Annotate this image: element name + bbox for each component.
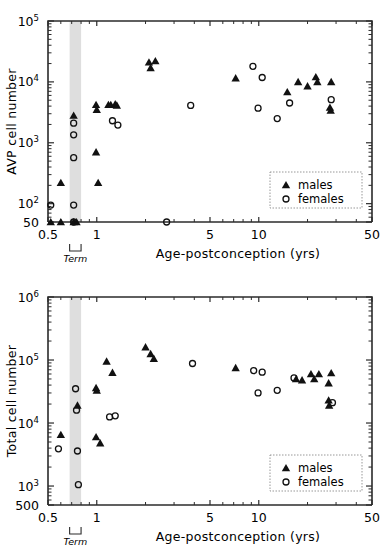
data-point-male [92,433,100,440]
x-tick-label: 0.5 [38,227,58,242]
term-bracket [70,244,81,251]
data-point-female [107,414,113,420]
data-point-male [283,88,291,95]
data-point-female [274,387,280,393]
data-point-female [255,105,261,111]
series-males [57,343,336,446]
data-point-female [250,63,256,69]
y-tick-label: 50 [23,215,39,230]
x-tick-label: 50 [364,227,380,242]
data-point-male [298,376,306,383]
x-tick-label: 5 [206,227,214,242]
x-axis-title: Age-postconception (yrs) [156,529,321,544]
term-bracket [70,527,81,534]
data-point-male [327,78,335,85]
data-point-male [145,58,153,65]
data-point-female [255,390,261,396]
term-bracket-label: Term [64,536,88,547]
x-tick-label: 1 [93,227,101,242]
data-point-female [251,368,257,374]
data-point-female [188,102,194,108]
y-tick-label: 106 [18,289,39,305]
data-point-male [92,148,100,155]
x-tick-label: 5 [206,510,214,525]
y-tick-label: 104 [18,415,39,431]
y-tick-label: 500 [15,498,39,513]
data-point-male [231,74,239,81]
y-axis-title: Total cell number [4,344,19,458]
y-tick-label: 103 [18,478,39,494]
data-point-male [102,357,110,364]
data-point-female [287,100,293,106]
term-shaded-band [70,297,81,505]
data-point-female [109,118,115,124]
data-point-female [112,413,118,419]
data-point-male [294,78,302,85]
data-point-male [327,369,335,376]
y-tick-label: 103 [18,134,39,150]
data-point-female [274,116,280,122]
y-tick-label: 105 [18,13,39,29]
term-bracket-label: Term [64,253,88,264]
data-point-male [151,57,159,64]
x-tick-label: 10 [251,510,267,525]
data-point-male [315,370,323,377]
y-tick-label: 104 [18,73,39,89]
x-tick-label: 0.5 [38,510,58,525]
data-point-female [259,75,265,81]
avp-cell-number-panel: 0.515105050102103104105AVP cell numberAg… [0,0,388,277]
data-point-male [57,431,65,438]
legend-label-males: males [298,461,333,475]
data-point-male [141,343,149,350]
data-point-female [328,97,334,103]
data-point-male [94,179,102,186]
data-point-male [231,364,239,371]
data-point-male [303,82,311,89]
x-tick-label: 1 [93,510,101,525]
legend-label-males: males [298,178,333,192]
legend-label-females: females [298,475,344,489]
y-tick-label: 105 [18,352,39,368]
data-point-female [55,446,61,452]
data-point-male [57,179,65,186]
legend-label-females: females [298,192,344,206]
x-tick-label: 50 [364,510,380,525]
data-point-female [190,361,196,367]
y-axis-title: AVP cell number [4,68,19,175]
y-tick-label: 102 [18,195,39,211]
x-axis-title: Age-postconception (yrs) [156,246,321,261]
figure-container: 0.515105050102103104105AVP cell numberAg… [0,0,388,554]
data-point-male [312,73,320,80]
data-point-female [115,122,121,128]
x-tick-label: 10 [251,227,267,242]
data-point-male [108,369,116,376]
data-point-male [324,379,332,386]
data-point-female [259,369,265,375]
total-cell-number-panel: 0.5151050500103104105106Total cell numbe… [0,277,388,554]
